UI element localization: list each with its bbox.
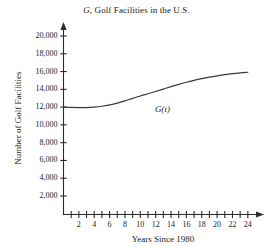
y-axis-title: Number of Golf Facilities xyxy=(13,53,23,183)
y-axis-arrowhead xyxy=(60,22,66,30)
y-tick-label: 2,000 xyxy=(12,191,58,200)
golf-facilities-chart: G, Golf Facilities in the U.S. 2,0004,00… xyxy=(0,0,273,251)
curve-label-g-of-t: G(t) xyxy=(155,104,170,114)
y-tick-label: 20,000 xyxy=(12,31,58,40)
x-axis-title: Years Since 1980 xyxy=(63,234,263,244)
data-curve-g-of-t xyxy=(64,72,248,107)
x-axis-arrowhead xyxy=(256,211,264,217)
x-tick-label: 24 xyxy=(238,220,258,229)
